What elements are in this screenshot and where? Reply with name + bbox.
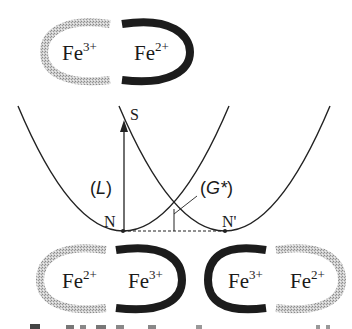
ion-label-fe2-bottom-left: Fe2+: [62, 267, 97, 293]
potential-energy-curves: [18, 106, 330, 231]
ion-label-fe3-bottom-left: Fe3+: [128, 267, 163, 293]
cropped-caption: [30, 324, 330, 329]
label-n: N: [104, 213, 116, 230]
point-n: [121, 229, 125, 233]
ion-label-fe3-bottom-right: Fe3+: [228, 267, 263, 293]
arrow-head-icon: [120, 120, 128, 132]
ion-label-fe2-bottom-right: Fe2+: [290, 267, 325, 293]
top-ion-pair: Fe3+ Fe2+: [44, 22, 190, 81]
bottom-left-ion-pair: Fe2+ Fe3+: [40, 248, 182, 309]
ion-label-fe3-top: Fe3+: [62, 39, 97, 65]
label-n-prime: N': [222, 213, 237, 230]
label-l: (L): [90, 178, 112, 198]
label-s: S: [130, 106, 139, 123]
bottom-right-ion-pair: Fe3+ Fe2+: [208, 248, 342, 309]
ion-label-fe2-top: Fe2+: [134, 39, 169, 65]
fe-electron-transfer-diagram: Fe3+ Fe2+ S N N' (L) (G*) Fe2+: [0, 0, 352, 329]
label-g-star: (G*): [200, 178, 233, 198]
